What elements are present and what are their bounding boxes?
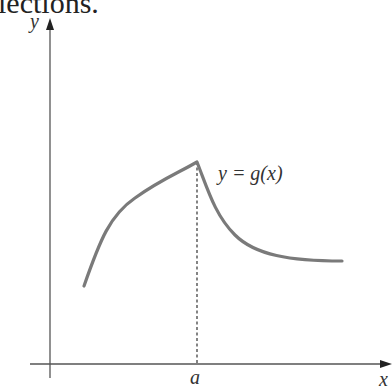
function-graph xyxy=(0,0,392,390)
curve-label: y = g(x) xyxy=(218,162,283,185)
y-axis-label: y xyxy=(30,10,39,33)
point-a-label: a xyxy=(190,366,200,389)
y-axis-arrow-icon xyxy=(46,18,54,30)
x-axis-label: x xyxy=(379,368,388,390)
curve-g xyxy=(84,162,342,286)
x-axis-arrow-icon xyxy=(380,360,392,368)
